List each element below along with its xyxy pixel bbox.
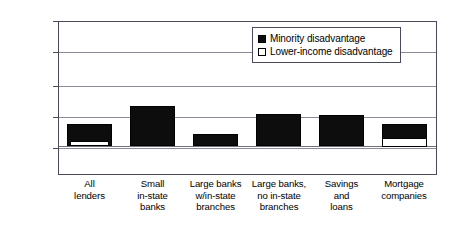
chart-legend: Minority disadvantage Lower-income disad…	[252, 27, 401, 63]
label-line: branches	[182, 201, 249, 213]
label-line: Savings	[310, 178, 373, 190]
label-line: no in-state	[244, 190, 314, 202]
label-line: Large banks,	[244, 178, 314, 190]
label-line: and	[310, 190, 373, 202]
bar-minority-disadvantage[interactable]	[319, 115, 364, 146]
label-line: Small	[121, 178, 184, 190]
bar-minority-disadvantage[interactable]	[130, 106, 175, 146]
label-line: in-state	[121, 190, 184, 202]
x-axis-category-label: Large banks w/in-state branches	[182, 178, 249, 213]
legend-label: Lower-income disadvantage	[270, 46, 393, 57]
bar-group	[184, 21, 247, 175]
bar-lower-income-disadvantage[interactable]	[382, 138, 427, 147]
x-axis-labels: All lenders Small in-state banks Large b…	[58, 178, 437, 235]
legend-label: Minority disadvantage	[270, 33, 365, 44]
bar-chart-figure: -190.0 -140.0 -90.0 -40.0 10.0	[0, 0, 453, 235]
legend-entry-lower-income-disadvantage[interactable]: Lower-income disadvantage	[258, 45, 393, 58]
bar-minority-disadvantage[interactable]	[193, 134, 238, 146]
x-axis-category-label: Savings and loans	[310, 178, 373, 213]
label-line: Large banks	[182, 178, 249, 190]
label-line: branches	[244, 201, 314, 213]
x-axis-category-label: Large banks, no in-state branches	[244, 178, 314, 213]
bar-minority-disadvantage[interactable]	[256, 114, 301, 146]
label-line: lenders	[58, 190, 121, 202]
label-line: loans	[310, 201, 373, 213]
bar-lower-income-disadvantage[interactable]	[70, 141, 109, 146]
label-line: All	[58, 178, 121, 190]
legend-entry-minority-disadvantage[interactable]: Minority disadvantage	[258, 32, 393, 45]
filled-square-icon	[258, 35, 266, 43]
x-axis-category-label: Mortgage companies	[371, 178, 437, 201]
label-line: companies	[371, 190, 437, 202]
label-line: Mortgage	[371, 178, 437, 190]
bar-group	[121, 21, 184, 175]
label-line: w/in-state	[182, 190, 249, 202]
x-axis-category-label: All lenders	[58, 178, 121, 201]
hollow-square-icon	[258, 48, 266, 56]
label-line: banks	[121, 201, 184, 213]
bar-group	[58, 21, 121, 175]
x-axis-category-label: Small in-state banks	[121, 178, 184, 213]
